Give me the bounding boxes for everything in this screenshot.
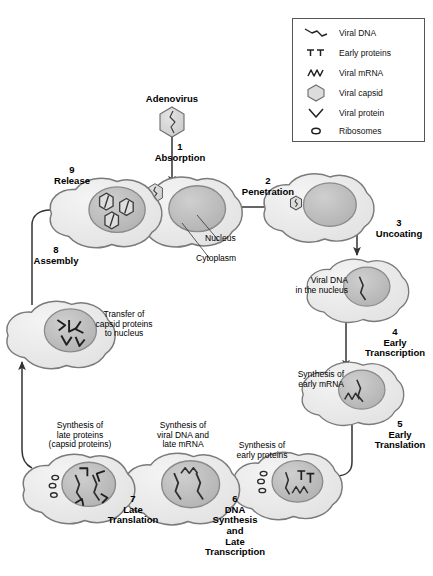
label-synthesis-viral-dna-late-mrna: Synthesis of viral DNA and late mRNA [144, 421, 222, 450]
nucleus-annotation: Nucleus [205, 234, 265, 244]
viral-capsid-icon [293, 83, 339, 103]
label-synthesis-early-mrna: Synthesis of early mRNA [272, 370, 344, 389]
label-synthesis-early-proteins: Synthesis of early proteins [225, 441, 299, 460]
legend-label: Ribosomes [339, 126, 382, 136]
legend-item-viral-capsid: Viral capsid [293, 83, 426, 103]
step-9-release: 9 Release [38, 165, 106, 186]
step-7-late-translation: 7 Late Translation [92, 494, 174, 526]
viral-dna-icon [293, 27, 339, 39]
step-5-early-translation: 5 Early Translation [369, 419, 431, 451]
cell-release [50, 178, 162, 248]
label-synthesis-late-proteins: Synthesis of late proteins (capsid prote… [38, 421, 122, 450]
step-2-penetration: 2 Penetration [228, 176, 308, 197]
cytoplasm-annotation: Cytoplasm [196, 254, 266, 264]
legend-item-viral-mrna: Viral mRNA [293, 63, 426, 83]
adenovirus-label: Adenovirus [122, 94, 222, 105]
early-proteins-icon [293, 47, 339, 59]
legend-label: Viral capsid [339, 88, 383, 98]
step-8-assembly: 8 Assembly [20, 245, 92, 266]
viral-protein-icon [293, 106, 339, 120]
legend-label: Viral protein [339, 108, 384, 118]
step-1-absorption: 1 Absorption [140, 142, 220, 163]
legend-label: Viral DNA [339, 28, 376, 38]
step-4-early-transcription: 4 Early Transcription [358, 327, 432, 359]
legend-label: Early proteins [339, 48, 391, 58]
adenovirus-capsid [160, 107, 184, 137]
internalized-capsid-2 [290, 196, 301, 210]
label-viral-dna-in-nucleus: Viral DNA in the nucleus [272, 276, 348, 295]
step-6-dna-synthesis-late-transcription: 6 DNA Synthesis and Late Transcription [188, 494, 282, 558]
legend: Viral DNA Early proteins Viral mRNA Vira… [292, 18, 425, 142]
label-transfer-capsid-proteins: Transfer of capsid proteins to nucleus [83, 310, 165, 339]
legend-label: Viral mRNA [339, 68, 383, 78]
legend-item-viral-dna: Viral DNA [293, 23, 426, 43]
legend-item-ribosomes: Ribosomes [293, 121, 426, 141]
step-3-uncoating: 3 Uncoating [368, 218, 430, 239]
viral-mrna-icon [293, 67, 339, 79]
legend-item-early-proteins: Early proteins [293, 43, 426, 63]
diagram-canvas: Viral DNA Early proteins Viral mRNA Vira… [0, 0, 433, 576]
legend-item-viral-protein: Viral protein [293, 103, 426, 123]
ribosomes-icon [293, 125, 339, 137]
